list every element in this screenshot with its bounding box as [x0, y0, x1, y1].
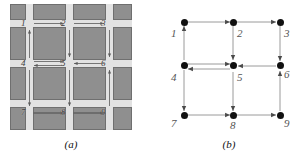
caption-a: (a) — [10, 138, 132, 150]
intersection-label-3: 3 — [101, 19, 106, 28]
graph-label-2: 2 — [237, 28, 243, 39]
intersection-label-1: 1 — [21, 19, 26, 28]
intersection-label-7: 7 — [21, 108, 26, 117]
caption-b: (b) — [168, 138, 290, 150]
graph-label-6: 6 — [284, 69, 290, 80]
graph-label-5: 5 — [237, 72, 243, 83]
graph-label-3: 3 — [284, 28, 290, 39]
graph-node-2 — [230, 19, 237, 26]
panel-b-directed-graph: 1 2 3 4 5 6 7 8 9 — [160, 4, 296, 130]
graph-node-5 — [230, 62, 237, 69]
panel-a-street-grid: 1 2 3 4 5 6 7 8 9 — [10, 4, 132, 130]
intersection-label-5: 5 — [61, 59, 66, 68]
graph-node-7 — [181, 112, 188, 119]
intersection-label-8: 8 — [61, 108, 66, 117]
graph-node-4 — [181, 62, 188, 69]
graph-label-8: 8 — [230, 120, 236, 131]
street-grid-image: 1 2 3 4 5 6 7 8 9 — [10, 4, 132, 130]
graph-label-1: 1 — [171, 28, 177, 39]
street-direction-arrows-top — [10, 4, 132, 130]
graph-label-4: 4 — [171, 72, 177, 83]
graph-label-7: 7 — [171, 118, 177, 129]
figure-container: 1 2 3 4 5 6 7 8 9 (a) — [0, 0, 300, 167]
intersection-label-4: 4 — [21, 59, 26, 68]
graph-node-8 — [230, 112, 237, 119]
graph-node-6 — [277, 62, 284, 69]
graph-label-9: 9 — [284, 118, 290, 129]
graph-node-9 — [277, 112, 284, 119]
graph-node-3 — [277, 19, 284, 26]
intersection-label-9: 9 — [101, 108, 106, 117]
graph-node-1 — [181, 19, 188, 26]
intersection-label-6: 6 — [101, 59, 106, 68]
intersection-label-2: 2 — [61, 19, 66, 28]
